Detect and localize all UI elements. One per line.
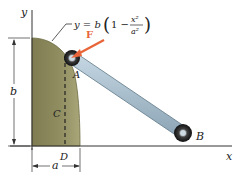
point-b-label: B	[195, 130, 204, 143]
point-a-label: A	[72, 69, 80, 80]
dim-b-label: b	[10, 85, 17, 98]
equation-denominator: a²	[131, 27, 139, 36]
point-d-label: D	[59, 151, 68, 162]
point-c-label: C	[53, 108, 61, 119]
dim-b-arrow-top	[12, 39, 16, 45]
dim-a-arrow-right	[74, 164, 80, 168]
force-arrow	[71, 40, 104, 58]
force-label: F	[86, 29, 93, 40]
roller-b	[174, 124, 192, 142]
x-axis-label: x	[226, 150, 233, 163]
equation-leader	[52, 24, 66, 41]
equation-paren-open: (	[103, 14, 110, 35]
mechanism-diagram: y x F A B C D b a y = b ( 1 − x² a² )	[0, 0, 246, 176]
equation-one-minus: 1 −	[111, 19, 129, 30]
equation-paren-close: )	[144, 14, 151, 35]
y-axis-label: y	[20, 6, 28, 19]
dim-a-arrow-left	[32, 164, 38, 168]
rod-ab	[69, 53, 187, 138]
dim-a-label: a	[52, 159, 59, 172]
equation-lhs: y = b	[73, 19, 101, 30]
dim-b-arrow-bottom	[12, 139, 16, 145]
curve-equation: y = b ( 1 − x² a² )	[73, 14, 151, 36]
equation-numerator: x²	[131, 15, 139, 24]
